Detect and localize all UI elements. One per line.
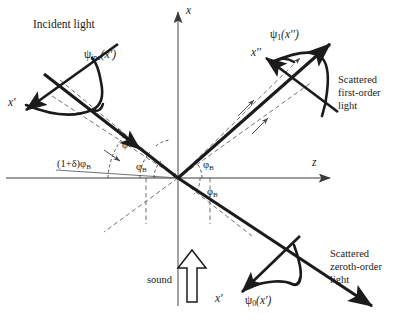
axis-x-label: x <box>186 4 191 17</box>
bragg-angle-first-order: φB <box>203 159 214 172</box>
first-order-frame-axis-label: x′′ <box>251 46 261 59</box>
zeroth-order-wave-packet <box>242 236 301 292</box>
construction-dashed-rays <box>52 58 312 236</box>
axis-z-label: z <box>312 156 316 169</box>
incident-profile-label: ψinc(x′) <box>84 48 116 62</box>
sound-label: sound <box>147 274 172 286</box>
acousto-optic-bragg-diagram: Incident light ψinc(x′) x′ x z ψ1(x′′) x… <box>0 0 401 327</box>
incident-frame-axis-label: x′ <box>8 96 16 109</box>
first-order-profile-label: ψ1(x′′) <box>270 28 299 42</box>
psi-subscript: inc <box>91 53 101 62</box>
angle-symbol: (1+δ)φ <box>57 158 86 169</box>
psi-argument: (x′) <box>101 48 116 60</box>
angle-subscript: B <box>142 166 147 174</box>
psi-argument: (x′) <box>256 294 271 306</box>
psi-argument: (x′′) <box>281 28 299 40</box>
bragg-angle-zeroth-order: φB <box>207 186 218 199</box>
angle-subscript: B <box>86 163 91 171</box>
bragg-angle-incident: φB <box>136 161 147 174</box>
incident-mismatch-angle: (1+δ)φB <box>57 158 91 171</box>
incident-light-label: Incident light <box>33 18 95 31</box>
scattered-zeroth-order-label: Scattered zeroth-order light <box>330 248 382 286</box>
phi-prime-angle: φ′ <box>122 139 130 151</box>
sound-block-arrow <box>178 250 206 302</box>
zeroth-order-profile-label: ψ0(x′) <box>245 294 271 308</box>
scattered-first-order-label: Scattered first-order light <box>338 74 381 112</box>
angle-subscript: B <box>209 164 214 172</box>
angle-symbol: φ′ <box>122 139 130 150</box>
guide-arrow-markers <box>104 100 268 161</box>
first-order-wave-packet <box>266 53 338 116</box>
angle-subscript: B <box>213 191 218 199</box>
zeroth-order-frame-axis-label: x′ <box>215 292 223 305</box>
first-order-beam-ray <box>178 44 330 178</box>
